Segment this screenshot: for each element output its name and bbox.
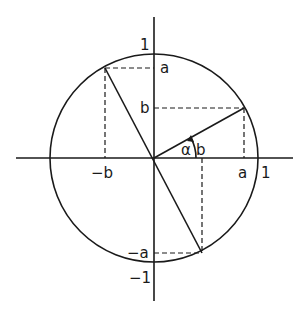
label-b-y: b xyxy=(140,99,150,117)
label-neg-b-x: −b xyxy=(91,164,113,182)
label-alpha: α xyxy=(181,141,191,159)
label-neg-a-y: −a xyxy=(127,244,149,262)
label-y-1: 1 xyxy=(140,36,150,54)
label-x-1: 1 xyxy=(261,164,271,182)
label-a-y: a xyxy=(160,59,169,77)
unit-circle-diagram: 1 a b −a −1 −b a 1 b α xyxy=(0,0,304,312)
label-y-neg-1: −1 xyxy=(129,269,151,287)
label-b-x: b xyxy=(196,141,206,159)
label-a-x: a xyxy=(238,164,247,182)
